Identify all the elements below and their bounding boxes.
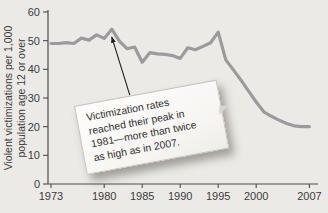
y-tick-label: 20 [28,121,40,133]
annotation-text: Victimization rates reached their peak i… [85,88,219,165]
x-tick-label: 1973 [39,190,63,202]
chart-figure: Violent victimizations per 1,000 populat… [0,0,328,213]
y-tick-label: 10 [28,149,40,161]
x-tick-label: 1990 [168,190,192,202]
x-tick-label: 2000 [244,190,268,202]
y-tick-label: 50 [28,35,40,47]
y-tick-label: 0 [34,178,40,190]
x-tick-label: 1985 [130,190,154,202]
x-tick-label: 2007 [297,190,321,202]
y-tick-label: 60 [28,6,40,18]
note-folded-corner-icon [219,106,228,115]
annotation-arrow-line [112,37,130,95]
y-tick-label: 30 [28,92,40,104]
x-tick-label: 1980 [92,190,116,202]
annotation-arrow [112,37,130,95]
x-tick-label: 1995 [206,190,230,202]
y-tick-label: 40 [28,63,40,75]
